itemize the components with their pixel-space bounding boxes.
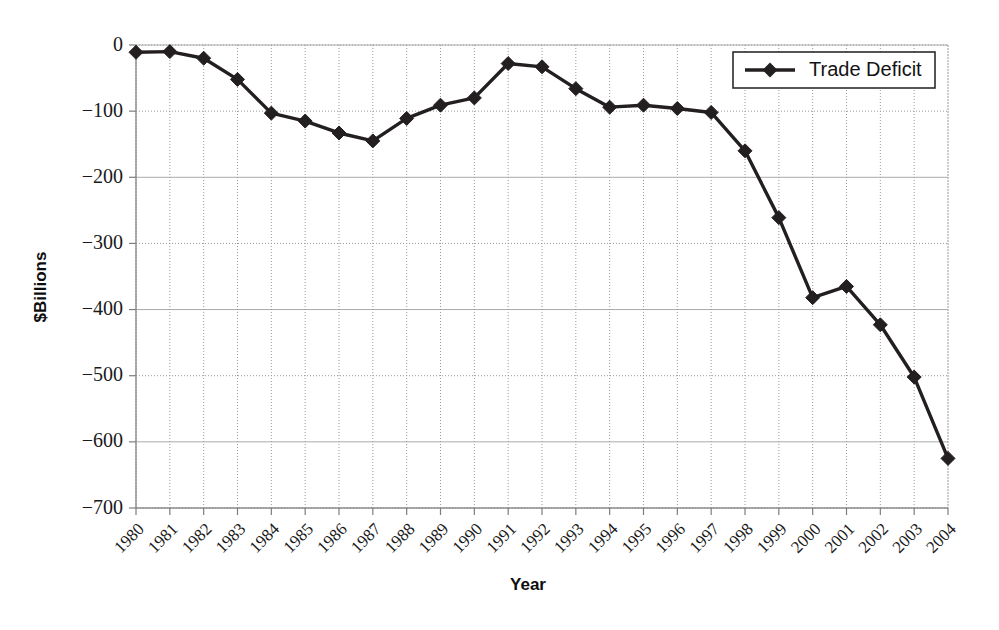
x-tick-label: 1983 (212, 519, 249, 556)
x-axis-title: Year (510, 575, 546, 594)
x-tick-label: 1990 (449, 519, 486, 556)
x-axis-ticks: 1980198119821983198419851986198719881989… (110, 508, 960, 557)
y-tick-label: −100 (82, 99, 123, 121)
legend-label: Trade Deficit (809, 58, 922, 80)
x-tick-label: 1997 (686, 519, 724, 557)
x-tick-label: 1996 (652, 519, 689, 556)
x-tick-label: 1980 (110, 519, 147, 556)
x-tick-label: 1985 (280, 519, 317, 556)
y-tick-label: −400 (82, 297, 123, 319)
x-tick-label: 1993 (550, 519, 587, 556)
y-axis-ticks: 0−100−200−300−400−500−600−700 (82, 33, 136, 518)
y-tick-label: −600 (82, 429, 123, 451)
y-axis-title: $Billions (31, 252, 50, 323)
svg-text:$Billions: $Billions (31, 252, 50, 323)
x-tick-label: 2001 (821, 519, 858, 556)
x-tick-label: 2004 (922, 519, 960, 557)
x-tick-label: 2002 (855, 519, 892, 556)
y-tick-label: −200 (82, 165, 123, 187)
y-tick-label: 0 (113, 33, 123, 55)
x-tick-label: 1989 (415, 519, 452, 556)
y-tick-label: −300 (82, 231, 123, 253)
x-tick-label: 1994 (584, 519, 622, 557)
x-tick-label: 2003 (889, 519, 926, 556)
svg-text:Year: Year (510, 575, 546, 594)
x-tick-label: 1982 (178, 519, 215, 556)
x-tick-label: 1984 (246, 519, 284, 557)
x-tick-label: 1987 (347, 519, 385, 557)
x-tick-label: 1991 (483, 519, 520, 556)
x-tick-label: 1995 (618, 519, 655, 556)
chart-canvas: 0−100−200−300−400−500−600−700 1980198119… (0, 0, 999, 630)
trade-deficit-chart: 0−100−200−300−400−500−600−700 1980198119… (0, 0, 999, 630)
x-tick-label: 1986 (313, 519, 350, 556)
chart-legend[interactable]: Trade Deficit (733, 52, 935, 88)
x-tick-label: 1998 (719, 519, 756, 556)
x-tick-label: 1981 (144, 519, 181, 556)
y-tick-label: −700 (82, 496, 123, 518)
x-tick-label: 2000 (787, 519, 824, 556)
y-tick-label: −500 (82, 363, 123, 385)
x-tick-label: 1999 (753, 519, 790, 556)
x-tick-label: 1992 (516, 519, 553, 556)
x-tick-label: 1988 (381, 519, 418, 556)
